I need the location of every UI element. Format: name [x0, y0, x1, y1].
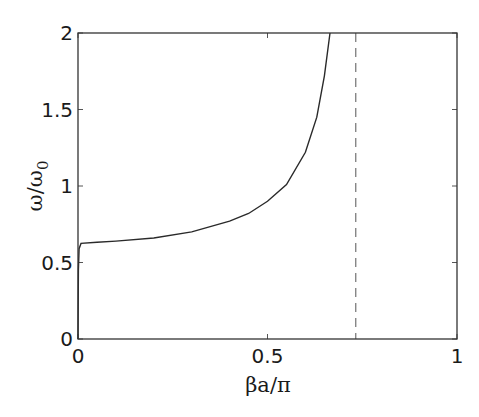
y-tick-label: 2	[60, 21, 73, 45]
y-tick-label: 0.5	[41, 251, 73, 275]
y-tick-label: 1.5	[41, 98, 73, 122]
y-axis-label-main: ω/ω	[23, 170, 47, 211]
y-axis-label: ω/ω0	[23, 161, 52, 212]
x-tick-label: 1	[451, 344, 464, 368]
x-tick-label: 0	[72, 344, 85, 368]
y-axis-label-subscript: 0	[34, 161, 52, 171]
chart: 00.51 00.511.52 βa/π ω/ω0	[0, 0, 479, 417]
dispersion-curve	[78, 33, 330, 339]
x-tick-labels: 00.51	[72, 344, 464, 368]
y-tick-label: 0	[60, 327, 73, 351]
x-axis-label: βa/π	[245, 373, 291, 397]
y-tick-label: 1	[60, 174, 73, 198]
axis-ticks	[78, 33, 457, 339]
x-tick-label: 0.5	[252, 344, 284, 368]
plot-frame	[78, 33, 457, 339]
